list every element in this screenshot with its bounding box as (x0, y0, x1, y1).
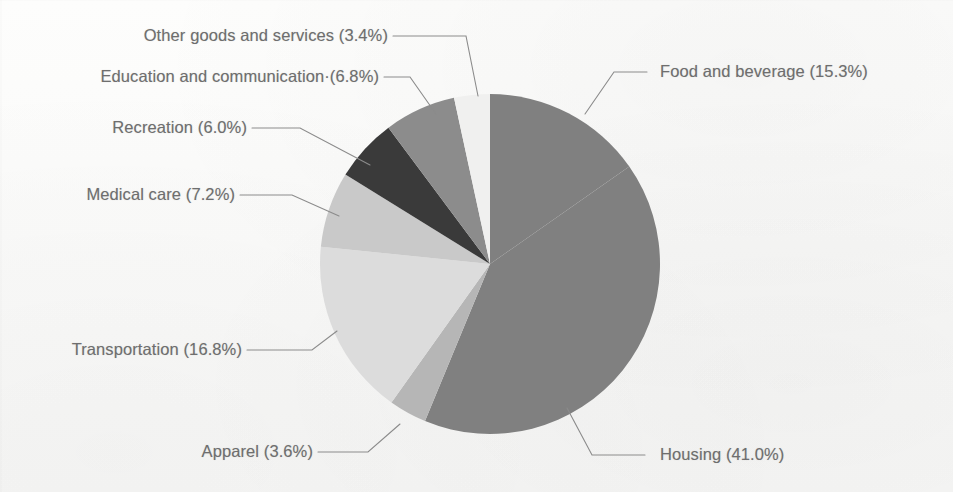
leader-line-medical-care (240, 195, 339, 216)
leader-line-food-and-beverage (585, 72, 647, 114)
pie-label-other-goods-and-services: Other goods and services (3.4%) (0, 26, 388, 45)
pie-label-recreation: Recreation (6.0%) (0, 118, 247, 137)
leader-line-recreation (252, 128, 370, 165)
pie-slices (320, 94, 660, 434)
pie-label-housing: Housing (41.0%) (660, 445, 784, 464)
leader-line-apparel (318, 424, 400, 452)
leader-line-other-goods-and-services (393, 36, 478, 96)
pie-label-medical-care: Medical care (7.2%) (0, 185, 235, 204)
pie-label-transportation: Transportation (16.8%) (0, 340, 242, 359)
pie-label-food-and-beverage: Food and beverage (15.3%) (660, 62, 868, 81)
leader-line-transportation (247, 331, 337, 350)
pie-chart-figure: Other goods and services (3.4%) Educatio… (0, 0, 953, 492)
leader-line-housing (567, 408, 645, 455)
pie-label-education-and-communication: Education and communication·(6.8%) (0, 67, 379, 86)
pie-label-apparel: Apparel (3.6%) (0, 442, 313, 461)
